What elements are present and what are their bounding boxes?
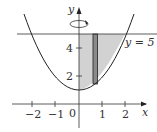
x-tick-label-neg1: −1 [48, 108, 64, 121]
y-axis-arrow-icon [77, 7, 82, 14]
vertical-strip [93, 34, 98, 84]
shaded-region-fill [79, 34, 125, 90]
line-label: y = 5 [124, 36, 154, 49]
y-tick-label-4: 4 [66, 42, 73, 55]
y-axis-label: y [67, 3, 75, 16]
diagram-canvas: y x −2 −1 0 1 2 2 4 y = 5 [0, 0, 157, 132]
y-tick-label-2: 2 [66, 70, 73, 83]
x-tick-label-2: 2 [122, 108, 129, 121]
x-tick-label-neg2: −2 [25, 108, 41, 121]
x-tick-label-1: 1 [99, 108, 106, 121]
x-tick-label-0: 0 [69, 107, 76, 120]
x-axis-label: x [142, 106, 149, 119]
